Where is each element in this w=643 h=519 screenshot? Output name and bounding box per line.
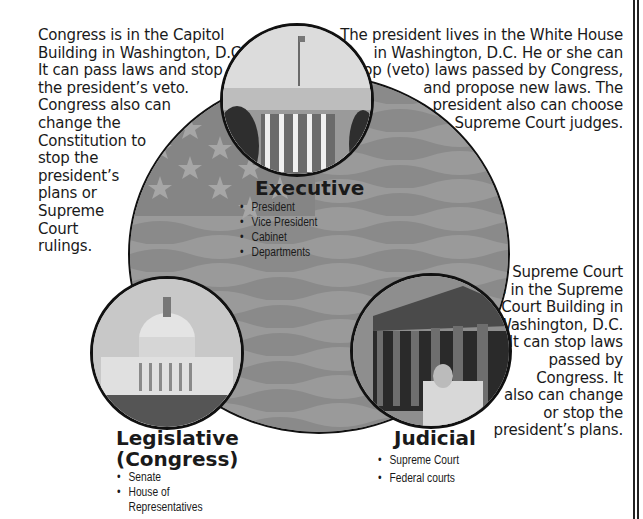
white-house-icon: [223, 26, 371, 174]
list-item: Federal courts: [378, 469, 459, 487]
capitol-building-icon: [93, 279, 241, 427]
list-item: Supreme Court: [378, 451, 459, 469]
supreme-court-icon: [353, 276, 509, 426]
list-item: Senate: [117, 470, 203, 485]
legislative-title: Legislative (Congress): [116, 428, 236, 470]
legislative-list: Senate House of Representatives: [117, 470, 203, 515]
border-rule: [633, 0, 635, 519]
list-item: House of: [117, 485, 203, 500]
list-item: President: [240, 200, 317, 215]
list-item: Cabinet: [240, 230, 317, 245]
supreme-court-photo: [350, 273, 512, 429]
legislative-title-line2: (Congress): [116, 449, 236, 470]
border-rule: [637, 0, 639, 519]
capitol-building-photo: [90, 276, 244, 430]
white-house-photo: [220, 23, 374, 177]
list-item-continued: Representatives: [117, 500, 203, 515]
text-line: Building in Washington, D.C.: [38, 45, 238, 63]
executive-title: Executive: [255, 178, 364, 199]
judicial-title: Judicial: [394, 428, 476, 449]
text-line: Congress is in the Capitol: [38, 27, 238, 45]
executive-list: President Vice President Cabinet Departm…: [240, 200, 317, 260]
legislative-title-line1: Legislative: [116, 428, 236, 449]
list-item: Vice President: [240, 215, 317, 230]
list-item: Departments: [240, 245, 317, 260]
judicial-list: Supreme Court Federal courts: [378, 451, 459, 487]
